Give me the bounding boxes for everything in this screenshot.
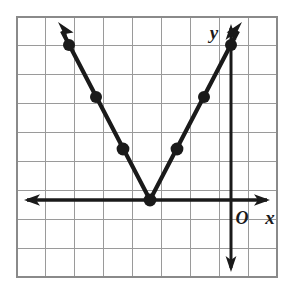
data-point[interactable] bbox=[171, 143, 184, 156]
data-point[interactable] bbox=[117, 143, 130, 156]
origin-label: O bbox=[236, 208, 249, 228]
y-axis-label: y bbox=[208, 22, 219, 43]
plot-background bbox=[17, 17, 277, 277]
data-point[interactable] bbox=[90, 91, 102, 103]
data-point-vertex[interactable] bbox=[144, 194, 157, 207]
x-axis-label: x bbox=[264, 207, 275, 228]
coordinate-graph-figure: y x O bbox=[0, 0, 295, 300]
screenshot-root: y x O bbox=[0, 0, 295, 300]
data-point[interactable] bbox=[225, 39, 237, 51]
data-point[interactable] bbox=[63, 39, 75, 51]
graph-svg: y x O bbox=[0, 0, 295, 300]
data-point[interactable] bbox=[198, 91, 210, 103]
